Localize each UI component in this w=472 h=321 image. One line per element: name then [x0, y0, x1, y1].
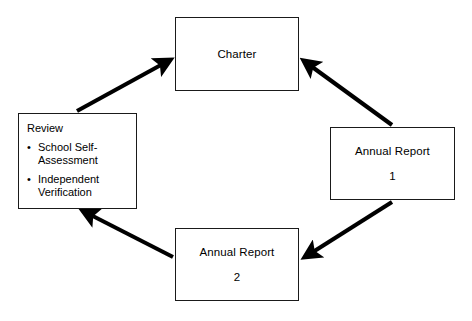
node-annual-report-2-label: Annual Report [200, 245, 275, 259]
review-bullet-list: • School Self-Assessment • Independent V… [27, 141, 136, 199]
review-bullet-item: • Independent Verification [27, 173, 136, 199]
node-annual-report-1-label: Annual Report [355, 144, 430, 158]
arrow-annual-report-2-to-review [83, 211, 173, 257]
arrow-annual-report-1-to-annual-report-2 [305, 202, 392, 257]
node-review-label: Review [27, 121, 136, 135]
bullet-point-icon: • [27, 173, 31, 186]
diagram-canvas: Charter Annual Report 1 Annual Report 2 … [0, 0, 472, 321]
node-charter-label: Charter [217, 47, 256, 61]
bullet-point-icon: • [27, 141, 31, 154]
node-annual-report-2-number: 2 [234, 270, 240, 284]
review-bullet-text: Independent Verification [38, 173, 99, 198]
node-annual-report-1[interactable]: Annual Report 1 [330, 127, 455, 200]
arrow-annual-report-1-to-charter [304, 61, 392, 125]
node-charter[interactable]: Charter [175, 17, 299, 91]
review-bullet-text: School Self-Assessment [38, 141, 98, 166]
arrow-review-to-charter [77, 60, 170, 111]
review-bullet-item: • School Self-Assessment [27, 141, 136, 167]
node-annual-report-2[interactable]: Annual Report 2 [175, 228, 299, 301]
node-review[interactable]: Review • School Self-Assessment • Indepe… [18, 113, 137, 209]
node-annual-report-1-number: 1 [389, 169, 395, 183]
